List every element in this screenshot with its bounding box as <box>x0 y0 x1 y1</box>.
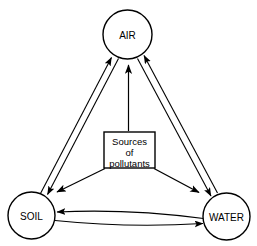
node-water[interactable]: WATER <box>203 193 250 240</box>
link-soil-water <box>55 211 204 225</box>
link-air-water-down <box>138 59 212 197</box>
link-soil-air <box>41 58 119 195</box>
source-arrow-to-soil <box>57 169 105 193</box>
pollutant-cycle-diagram: AIR SOIL WATER Sources of pollutants <box>0 0 257 246</box>
link-air-water <box>138 56 218 197</box>
node-air[interactable]: AIR <box>103 10 152 59</box>
node-soil-label: SOIL <box>20 211 43 222</box>
source-arrow-to-water <box>154 169 199 193</box>
link-water-to-soil <box>57 211 204 218</box>
link-soil-air-up <box>41 58 112 194</box>
sources-box-line-1: Sources <box>112 136 147 147</box>
node-soil[interactable]: SOIL <box>8 192 55 239</box>
sources-box-line-2: of <box>126 147 134 158</box>
link-soil-air-down <box>48 59 119 195</box>
link-soil-to-water <box>55 221 203 226</box>
sources-box-line-3: pollutants <box>109 158 150 169</box>
link-air-water-up <box>144 56 218 194</box>
sources-box[interactable]: Sources of pollutants <box>104 132 155 169</box>
diagram-canvas: AIR SOIL WATER Sources of pollutants <box>0 0 257 246</box>
node-water-label: WATER <box>209 212 244 223</box>
node-air-label: AIR <box>119 30 136 41</box>
